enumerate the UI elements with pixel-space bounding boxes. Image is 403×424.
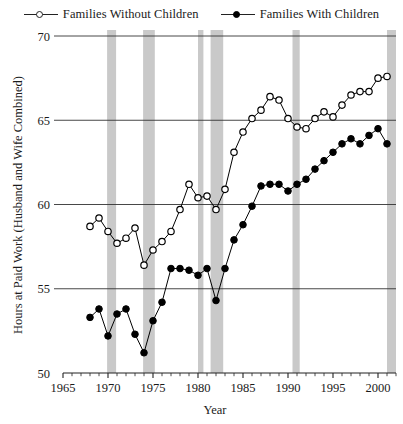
data-point: [348, 135, 355, 142]
data-point: [303, 176, 310, 183]
data-point: [312, 115, 318, 121]
data-point: [285, 115, 291, 121]
data-point: [240, 221, 247, 228]
data-point: [384, 141, 391, 148]
data-point: [330, 114, 336, 120]
data-point: [222, 186, 228, 192]
x-tick-label: 2000: [366, 381, 391, 395]
data-point: [150, 317, 157, 324]
data-point: [249, 115, 255, 121]
y-tick-label: 55: [38, 282, 51, 296]
recession-band: [293, 30, 300, 373]
x-ticks-group: [63, 373, 396, 378]
data-point: [384, 73, 390, 79]
y-tick-label: 70: [38, 30, 51, 44]
x-tick-label: 1980: [186, 381, 211, 395]
data-point: [240, 129, 246, 135]
x-tick-labels-group: 19651970197519801985199019952000: [51, 381, 391, 395]
data-point: [132, 225, 138, 231]
data-point: [123, 235, 129, 241]
recession-band: [211, 30, 224, 373]
data-point: [258, 107, 264, 113]
data-point: [195, 195, 201, 201]
data-point: [132, 331, 139, 338]
data-point: [303, 125, 309, 131]
y-tick-label: 50: [38, 367, 51, 381]
data-point: [168, 265, 175, 272]
data-point: [159, 238, 165, 244]
data-point: [96, 215, 102, 221]
y-axis-title: Hours at Paid Work (Husband and Wife Com…: [11, 76, 25, 334]
data-point: [123, 306, 130, 313]
x-tick-label: 1970: [96, 381, 121, 395]
data-point: [141, 262, 147, 268]
data-point: [186, 267, 193, 274]
data-point: [321, 109, 327, 115]
data-point: [375, 75, 381, 81]
data-point: [267, 93, 273, 99]
x-tick-label: 1990: [276, 381, 301, 395]
data-point: [294, 124, 300, 130]
data-point: [249, 203, 256, 210]
data-point: [105, 228, 111, 234]
data-point: [276, 97, 282, 103]
data-point: [87, 223, 93, 229]
data-point: [114, 240, 120, 246]
data-point: [375, 125, 382, 132]
data-point: [96, 306, 103, 313]
y-tick-label: 65: [38, 114, 51, 128]
data-point: [159, 299, 166, 306]
data-point: [105, 333, 112, 340]
data-point: [267, 181, 274, 188]
data-point: [213, 297, 220, 304]
recession-band: [198, 30, 203, 373]
data-point: [321, 157, 328, 164]
data-point: [330, 149, 337, 156]
data-point: [168, 228, 174, 234]
data-point: [231, 149, 237, 155]
data-point: [339, 102, 345, 108]
data-point: [339, 141, 346, 148]
data-point: [285, 188, 292, 195]
data-point: [195, 272, 202, 279]
data-point: [357, 141, 364, 148]
data-point: [348, 92, 354, 98]
data-point: [366, 132, 373, 139]
data-point: [177, 206, 183, 212]
data-point: [204, 193, 210, 199]
data-point: [294, 181, 301, 188]
chart-plot-area: 5055606570 19651970197519801985199019952…: [0, 0, 403, 424]
data-point: [258, 183, 265, 190]
chart-figure: Families Without Children Families With …: [0, 0, 403, 424]
x-tick-label: 1965: [51, 381, 76, 395]
x-tick-label: 1985: [231, 381, 256, 395]
series-families-with-children: [87, 125, 391, 356]
x-tick-label: 1995: [321, 381, 346, 395]
data-point: [87, 314, 94, 321]
recession-band: [107, 30, 116, 373]
x-tick-label: 1975: [141, 381, 166, 395]
data-point: [141, 349, 148, 356]
data-point: [231, 237, 238, 244]
data-point: [114, 311, 121, 318]
data-point: [213, 206, 219, 212]
data-point: [222, 265, 229, 272]
data-point: [366, 88, 372, 94]
data-point: [204, 265, 211, 272]
series-families-without-children: [87, 73, 390, 268]
data-point: [177, 265, 184, 272]
data-point: [312, 166, 319, 173]
data-point: [357, 88, 363, 94]
x-axis-title: Year: [203, 403, 227, 417]
y-tick-label: 60: [38, 198, 51, 212]
data-point: [186, 181, 192, 187]
data-point: [150, 247, 156, 253]
recession-band: [387, 30, 396, 373]
series-line: [90, 129, 387, 353]
y-tick-labels-group: 5055606570: [38, 30, 64, 381]
data-point: [276, 181, 283, 188]
